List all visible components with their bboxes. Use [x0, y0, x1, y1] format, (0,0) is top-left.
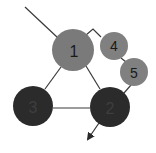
node-3[interactable]: 3	[13, 86, 53, 126]
node-5-label: 5	[130, 65, 138, 81]
node-5[interactable]: 5	[120, 58, 148, 86]
node-2[interactable]: 2	[90, 87, 130, 127]
node-4-label: 4	[110, 38, 118, 54]
edge-external-to-1	[25, 7, 58, 38]
node-4[interactable]: 4	[100, 32, 128, 60]
node-3-label: 3	[29, 99, 38, 116]
node-2-label: 2	[106, 100, 115, 117]
graph-diagram: 1 4 5 3 2	[0, 0, 156, 153]
node-1[interactable]: 1	[52, 29, 94, 71]
edge-1-to-3	[45, 67, 61, 89]
edge-1-to-2	[86, 66, 100, 89]
edge-2-to-external-arrow	[88, 123, 99, 139]
node-1-label: 1	[70, 43, 79, 60]
edge-5-to-2	[124, 85, 131, 93]
